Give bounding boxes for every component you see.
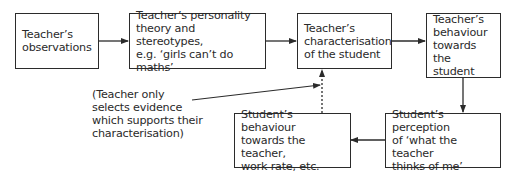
node-student-behaviour: Student’s behaviour towards the teacher,… (234, 113, 351, 168)
node-label: Teacher’s personality theory and stereot… (136, 9, 259, 74)
arrow-annotation-pointer (192, 85, 320, 100)
node-student-perception: Student’s perception of ‘what the teache… (385, 113, 501, 168)
node-teacher-characterisation: Teacher’s characterisation of the studen… (297, 13, 392, 69)
node-teacher-observations: Teacher’s observations (15, 13, 99, 69)
node-teacher-personality-theory: Teacher’s personality theory and stereot… (129, 13, 266, 69)
node-teacher-behaviour: Teacher’s behaviour towards the student (426, 13, 501, 78)
node-label: Teacher’s observations (22, 28, 92, 54)
node-label: Student’s perception of ‘what the teache… (392, 108, 494, 173)
node-label: Teacher’s characterisation of the studen… (304, 22, 392, 61)
annotation-selective-evidence: (Teacher only selects evidence which sup… (92, 88, 203, 140)
node-label: Student’s behaviour towards the teacher,… (241, 108, 344, 173)
node-label: Teacher’s behaviour towards the student (433, 13, 494, 78)
